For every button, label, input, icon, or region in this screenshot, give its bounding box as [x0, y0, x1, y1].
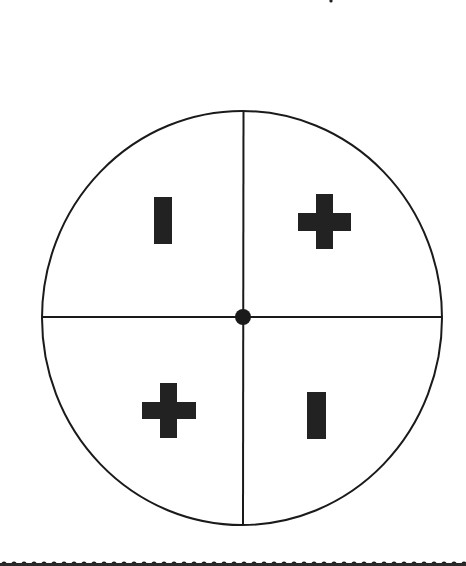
dotted-border	[0, 557, 466, 564]
plus-sign-top-right	[298, 194, 351, 249]
stray-mark	[329, 0, 332, 3]
plus-sign-bottom-left	[142, 383, 196, 438]
quadrant-diagram	[0, 0, 466, 566]
minus-sign-top-left	[154, 197, 172, 244]
minus-sign-bottom-right	[307, 392, 326, 439]
center-dot	[235, 309, 251, 325]
